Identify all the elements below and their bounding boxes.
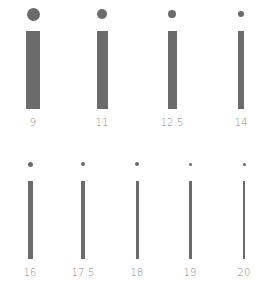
- glyph-stem: [81, 181, 85, 259]
- weight-label: 11: [95, 117, 108, 128]
- glyph-dot: [81, 162, 85, 166]
- glyph-dot: [27, 8, 40, 21]
- glyph-dot: [189, 163, 192, 166]
- glyph-dot: [243, 163, 246, 166]
- glyph-stem: [26, 31, 40, 109]
- weight-label: 20: [237, 267, 250, 278]
- glyph-stem: [238, 31, 244, 109]
- glyph-stem: [243, 181, 245, 259]
- glyph-dot: [238, 11, 244, 17]
- weight-label: 17.5: [71, 267, 94, 278]
- glyph-stem: [136, 181, 139, 259]
- weight-label: 9: [30, 117, 37, 128]
- weight-label: 16: [23, 267, 36, 278]
- glyph-dot: [28, 162, 33, 167]
- glyph-dot: [168, 10, 176, 18]
- glyph-stem: [28, 181, 33, 259]
- glyph-dot: [97, 9, 107, 19]
- glyph-stem: [189, 181, 192, 259]
- glyph-stem: [97, 31, 108, 109]
- weight-label: 14: [234, 117, 247, 128]
- glyph-stem: [168, 31, 177, 109]
- glyph-dot: [135, 162, 139, 166]
- weight-label: 12.5: [160, 117, 183, 128]
- weight-label: 18: [130, 267, 143, 278]
- weight-label: 19: [183, 267, 196, 278]
